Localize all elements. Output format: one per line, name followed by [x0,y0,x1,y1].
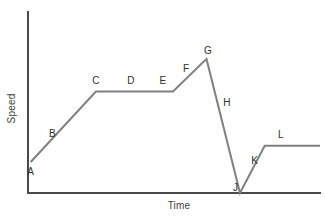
segment-label-f: F [183,63,189,74]
segment-label-c: C [92,74,99,85]
segment-label-k: K [251,155,258,166]
segment-label-d: D [127,74,134,85]
y-axis-title: Speed [0,78,24,138]
segment-label-g: G [204,45,212,56]
segment-label-j: J [233,181,238,192]
speed-time-chart: Speed Time ABCDEFGHJKL [0,0,325,218]
chart-plot-area [0,0,325,218]
segment-label-e: E [160,74,167,85]
segment-label-a: A [27,165,34,176]
segment-label-l: L [278,129,284,140]
segment-label-b: B [49,128,56,139]
speed-time-curve [31,59,320,193]
x-axis-title: Time [156,200,202,211]
y-axis-title-text: Speed [7,93,18,123]
segment-label-h: H [223,97,230,108]
